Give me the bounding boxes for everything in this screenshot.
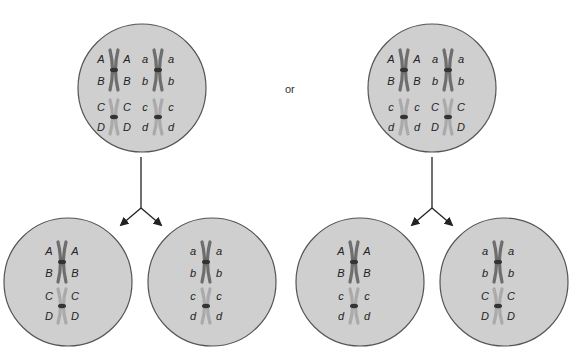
allele-label: b bbox=[142, 75, 148, 87]
arrow-right-branch bbox=[141, 208, 161, 225]
allele-label: B bbox=[123, 75, 130, 87]
centromere bbox=[400, 68, 408, 72]
allele-label: A bbox=[96, 53, 104, 65]
allele-label: c bbox=[216, 290, 222, 302]
allele-label: A bbox=[412, 53, 420, 65]
arrow-left-branch bbox=[121, 208, 141, 225]
meiosis-diagram: ABABababCDCDcdcdABABababcdcdCDCDABABCDCD… bbox=[0, 0, 574, 349]
centromere bbox=[202, 304, 210, 308]
allele-label: d bbox=[168, 121, 175, 133]
centromere bbox=[444, 115, 452, 119]
or-label: or bbox=[285, 83, 295, 95]
allele-label: C bbox=[457, 101, 465, 113]
daughter-cell-4: ababCDCD bbox=[440, 218, 568, 346]
allele-label: A bbox=[386, 53, 394, 65]
centromere bbox=[58, 260, 66, 264]
arrow-right-branch bbox=[432, 208, 452, 225]
allele-label: b bbox=[458, 75, 464, 87]
allele-label: B bbox=[363, 267, 370, 279]
cell-membrane bbox=[368, 24, 496, 152]
allele-label: A bbox=[70, 245, 78, 257]
allele-label: b bbox=[216, 267, 222, 279]
allele-label: c bbox=[364, 290, 370, 302]
parent-cell-right: ABABababcdcdCDCD bbox=[368, 24, 496, 152]
allele-label: A bbox=[336, 245, 344, 257]
allele-label: D bbox=[457, 121, 465, 133]
allele-label: D bbox=[45, 310, 53, 322]
allele-label: D bbox=[481, 310, 489, 322]
allele-label: D bbox=[507, 310, 515, 322]
allele-label: b bbox=[190, 267, 196, 279]
allele-label: c bbox=[142, 101, 148, 113]
centromere bbox=[350, 304, 358, 308]
centromere bbox=[494, 260, 502, 264]
daughter-cell-1: ABABCDCD bbox=[4, 218, 132, 346]
centromere bbox=[58, 304, 66, 308]
centromere bbox=[154, 115, 162, 119]
allele-label: A bbox=[362, 245, 370, 257]
allele-label: B bbox=[413, 75, 420, 87]
allele-label: b bbox=[432, 75, 438, 87]
centromere bbox=[110, 68, 118, 72]
allele-label: d bbox=[364, 310, 371, 322]
allele-label: c bbox=[168, 101, 174, 113]
allele-label: c bbox=[414, 101, 420, 113]
allele-label: a bbox=[508, 245, 514, 257]
cell-membrane bbox=[296, 218, 424, 346]
allele-label: D bbox=[97, 121, 105, 133]
allele-label: b bbox=[168, 75, 174, 87]
daughter-cell-3: ABABcdcd bbox=[296, 218, 424, 346]
allele-label: D bbox=[431, 121, 439, 133]
cell-membrane bbox=[440, 218, 568, 346]
allele-label: b bbox=[508, 267, 514, 279]
allele-label: a bbox=[190, 245, 196, 257]
cell-membrane bbox=[78, 24, 206, 152]
allele-label: C bbox=[97, 101, 105, 113]
allele-label: C bbox=[45, 290, 53, 302]
allele-label: a bbox=[168, 53, 174, 65]
allele-label: a bbox=[432, 53, 438, 65]
allele-label: C bbox=[507, 290, 515, 302]
cell-membrane bbox=[148, 218, 276, 346]
allele-label: a bbox=[482, 245, 488, 257]
arrow-left-branch bbox=[412, 208, 432, 225]
allele-label: B bbox=[45, 267, 52, 279]
allele-label: B bbox=[337, 267, 344, 279]
allele-label: C bbox=[481, 290, 489, 302]
allele-label: B bbox=[71, 267, 78, 279]
centromere bbox=[494, 304, 502, 308]
division-arrows bbox=[121, 157, 452, 225]
allele-label: a bbox=[216, 245, 222, 257]
allele-label: d bbox=[190, 310, 197, 322]
allele-label: a bbox=[142, 53, 148, 65]
allele-label: a bbox=[458, 53, 464, 65]
allele-label: d bbox=[216, 310, 223, 322]
allele-label: d bbox=[142, 121, 149, 133]
centromere bbox=[444, 68, 452, 72]
allele-label: b bbox=[482, 267, 488, 279]
allele-label: d bbox=[414, 121, 421, 133]
allele-label: c bbox=[388, 101, 394, 113]
allele-label: c bbox=[338, 290, 344, 302]
allele-label: D bbox=[71, 310, 79, 322]
allele-label: C bbox=[123, 101, 131, 113]
allele-label: d bbox=[388, 121, 395, 133]
allele-label: D bbox=[123, 121, 131, 133]
allele-label: A bbox=[122, 53, 130, 65]
allele-label: B bbox=[387, 75, 394, 87]
allele-label: d bbox=[338, 310, 345, 322]
centromere bbox=[350, 260, 358, 264]
centromere bbox=[110, 115, 118, 119]
allele-label: A bbox=[44, 245, 52, 257]
allele-label: C bbox=[431, 101, 439, 113]
allele-label: c bbox=[190, 290, 196, 302]
parent-cell-left: ABABababCDCDcdcd bbox=[78, 24, 206, 152]
centromere bbox=[202, 260, 210, 264]
daughter-cell-2: ababcdcd bbox=[148, 218, 276, 346]
allele-label: C bbox=[71, 290, 79, 302]
centromere bbox=[400, 115, 408, 119]
centromere bbox=[154, 68, 162, 72]
allele-label: B bbox=[97, 75, 104, 87]
cell-membrane bbox=[4, 218, 132, 346]
